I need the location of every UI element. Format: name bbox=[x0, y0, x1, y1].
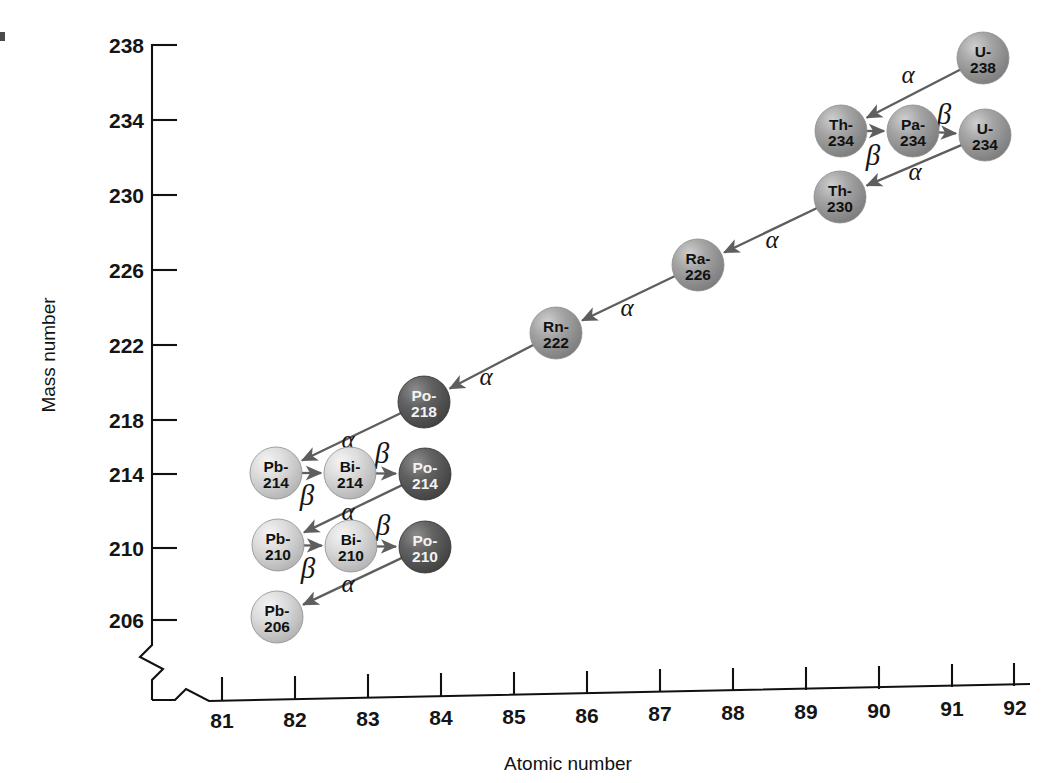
nuclide-mass-label: 206 bbox=[264, 618, 290, 635]
nuclide-element-label: Po- bbox=[412, 387, 437, 404]
nuclide-element-label: U- bbox=[975, 43, 991, 60]
nuclide-element-label: Th- bbox=[829, 116, 853, 133]
figure-canvas: 238 234 230 226 222 218 214 210 206 Mass… bbox=[0, 0, 1048, 783]
nuclide-mass-label: 238 bbox=[970, 59, 996, 76]
nuclide-node[interactable]: Po-210 bbox=[399, 521, 451, 573]
x-tick-label: 83 bbox=[356, 707, 379, 730]
y-tick-label: 214 bbox=[109, 463, 144, 486]
nuclide-mass-label: 210 bbox=[412, 548, 438, 565]
y-tick-label: 226 bbox=[109, 259, 144, 282]
nuclide-node[interactable]: Bi-210 bbox=[325, 520, 377, 572]
decay-label-alpha: α bbox=[620, 294, 634, 321]
nuclide-node[interactable]: Th-230 bbox=[814, 171, 866, 223]
nuclide-element-label: Po- bbox=[413, 532, 438, 549]
nuclide-element-label: Ra- bbox=[686, 250, 711, 267]
decay-chain-svg: 238 234 230 226 222 218 214 210 206 Mass… bbox=[0, 0, 1048, 783]
x-tick-label: 91 bbox=[940, 697, 964, 720]
nuclide-nodes-layer: U-238Th-234Pa-234U-234Th-230Ra-226Rn-222… bbox=[250, 32, 1011, 643]
y-tick-label: 210 bbox=[109, 537, 144, 560]
decay-label-beta: β bbox=[375, 509, 391, 541]
x-tick-label: 84 bbox=[429, 706, 453, 729]
y-tick-label: 218 bbox=[109, 409, 144, 432]
nuclide-element-label: Pb- bbox=[265, 602, 290, 619]
x-tick-label: 89 bbox=[794, 700, 817, 723]
nuclide-node[interactable]: U-234 bbox=[959, 109, 1011, 161]
nuclide-node[interactable]: Th-234 bbox=[815, 105, 867, 157]
y-tick-label: 234 bbox=[109, 109, 144, 132]
nuclide-element-label: Pb- bbox=[264, 458, 289, 475]
x-ticks bbox=[222, 663, 1014, 700]
decay-label-beta: β bbox=[374, 437, 390, 469]
decay-label-beta: β bbox=[299, 479, 315, 511]
nuclide-mass-label: 226 bbox=[685, 266, 711, 283]
nuclide-node[interactable]: Pb-214 bbox=[250, 447, 302, 499]
y-tick-label: 206 bbox=[109, 609, 144, 632]
x-tick-label: 90 bbox=[867, 699, 890, 722]
transitions-layer bbox=[298, 68, 965, 605]
nuclide-element-label: Bi- bbox=[340, 458, 361, 475]
nuclide-node[interactable]: Pa-234 bbox=[887, 105, 939, 157]
nuclide-node[interactable]: Ra-226 bbox=[672, 239, 724, 291]
nuclide-mass-label: 218 bbox=[411, 403, 437, 420]
decay-label-alpha: α bbox=[901, 61, 915, 88]
decay-label-alpha: α bbox=[341, 570, 355, 597]
nuclide-mass-label: 210 bbox=[338, 547, 364, 564]
nuclide-element-label: U- bbox=[977, 120, 993, 137]
decay-label-beta: β bbox=[865, 139, 881, 171]
nuclide-element-label: Po- bbox=[413, 459, 438, 476]
nuclide-mass-label: 234 bbox=[900, 132, 926, 149]
nuclide-node[interactable]: Pb-206 bbox=[251, 591, 303, 643]
x-tick-label: 92 bbox=[1003, 696, 1026, 719]
x-tick-label: 88 bbox=[721, 701, 745, 724]
x-tick-labels: 81 82 83 84 85 86 87 88 89 90 91 92 bbox=[210, 696, 1026, 732]
axis-x: 81 82 83 84 85 86 87 88 89 90 91 92 Atom… bbox=[152, 663, 1030, 774]
decay-label-alpha: α bbox=[765, 226, 779, 253]
axis-y: 238 234 230 226 222 218 214 210 206 Mass… bbox=[38, 34, 177, 700]
nuclide-node[interactable]: Po-214 bbox=[399, 448, 451, 500]
decay-arrow-alpha bbox=[450, 343, 537, 388]
x-tick-label: 81 bbox=[210, 709, 234, 732]
x-tick-label: 82 bbox=[283, 708, 306, 731]
nuclide-node[interactable]: Rn-222 bbox=[530, 307, 582, 359]
y-tick-label: 230 bbox=[109, 184, 144, 207]
y-tick-labels: 238 234 230 226 222 218 214 210 206 bbox=[109, 34, 144, 632]
x-tick-label: 87 bbox=[648, 702, 671, 725]
decay-label-alpha: α bbox=[479, 363, 493, 390]
nuclide-node[interactable]: Bi-214 bbox=[324, 447, 376, 499]
scan-artifact-speck bbox=[0, 32, 5, 41]
nuclide-node[interactable]: Po-218 bbox=[398, 376, 450, 428]
x-tick-label: 86 bbox=[575, 704, 598, 727]
y-axis-title: Mass number bbox=[38, 297, 59, 413]
x-tick-label: 85 bbox=[502, 705, 526, 728]
nuclide-mass-label: 234 bbox=[972, 136, 998, 153]
decay-label-alpha: α bbox=[908, 158, 922, 185]
nuclide-node[interactable]: Pb-210 bbox=[252, 519, 304, 571]
nuclide-mass-label: 214 bbox=[412, 475, 438, 492]
x-axis-title: Atomic number bbox=[504, 753, 632, 774]
y-ticks bbox=[152, 45, 177, 620]
nuclide-mass-label: 234 bbox=[828, 132, 854, 149]
nuclide-mass-label: 214 bbox=[337, 474, 363, 491]
y-tick-label: 238 bbox=[109, 34, 144, 57]
nuclide-element-label: Pa- bbox=[901, 116, 925, 133]
decay-label-beta: β bbox=[300, 552, 316, 584]
nuclide-element-label: Rn- bbox=[543, 318, 569, 335]
y-tick-label: 222 bbox=[109, 334, 144, 357]
nuclide-mass-label: 230 bbox=[827, 198, 853, 215]
nuclide-element-label: Th- bbox=[828, 182, 852, 199]
nuclide-element-label: Pb- bbox=[266, 530, 291, 547]
nuclide-element-label: Bi- bbox=[341, 531, 362, 548]
nuclide-mass-label: 214 bbox=[263, 474, 289, 491]
nuclide-mass-label: 210 bbox=[265, 546, 291, 563]
nuclide-mass-label: 222 bbox=[543, 334, 569, 351]
nuclide-node[interactable]: U-238 bbox=[957, 32, 1009, 84]
